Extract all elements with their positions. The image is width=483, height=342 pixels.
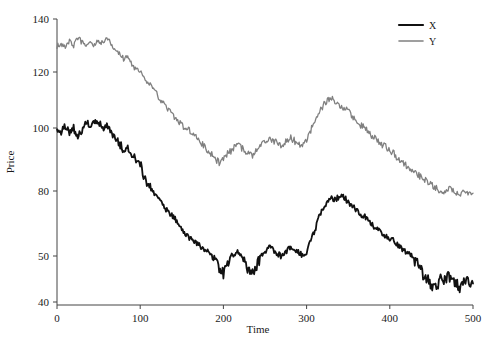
legend-label-x: X <box>429 20 437 31</box>
x-tick-label: 500 <box>465 312 482 324</box>
y-tick-label: 140 <box>33 13 50 25</box>
x-axis-title: Time <box>247 323 270 335</box>
x-tick-label: 0 <box>54 312 60 324</box>
x-tick-label: 300 <box>298 312 315 324</box>
y-tick-label: 50 <box>38 250 50 262</box>
chart-figure: 140120100805040 0100200300400500 Time Pr… <box>0 0 483 342</box>
y-tick-label: 120 <box>33 66 50 78</box>
x-tick-label: 400 <box>382 312 399 324</box>
y-tick-label: 80 <box>38 185 50 197</box>
price-time-line-chart: 140120100805040 0100200300400500 Time Pr… <box>0 0 483 342</box>
x-tick-label: 100 <box>132 312 149 324</box>
y-tick-label: 40 <box>38 296 50 308</box>
legend-label-y: Y <box>429 36 436 47</box>
x-tick-label: 200 <box>215 312 232 324</box>
y-tick-label: 100 <box>33 122 50 134</box>
y-axis-title: Price <box>4 151 16 174</box>
